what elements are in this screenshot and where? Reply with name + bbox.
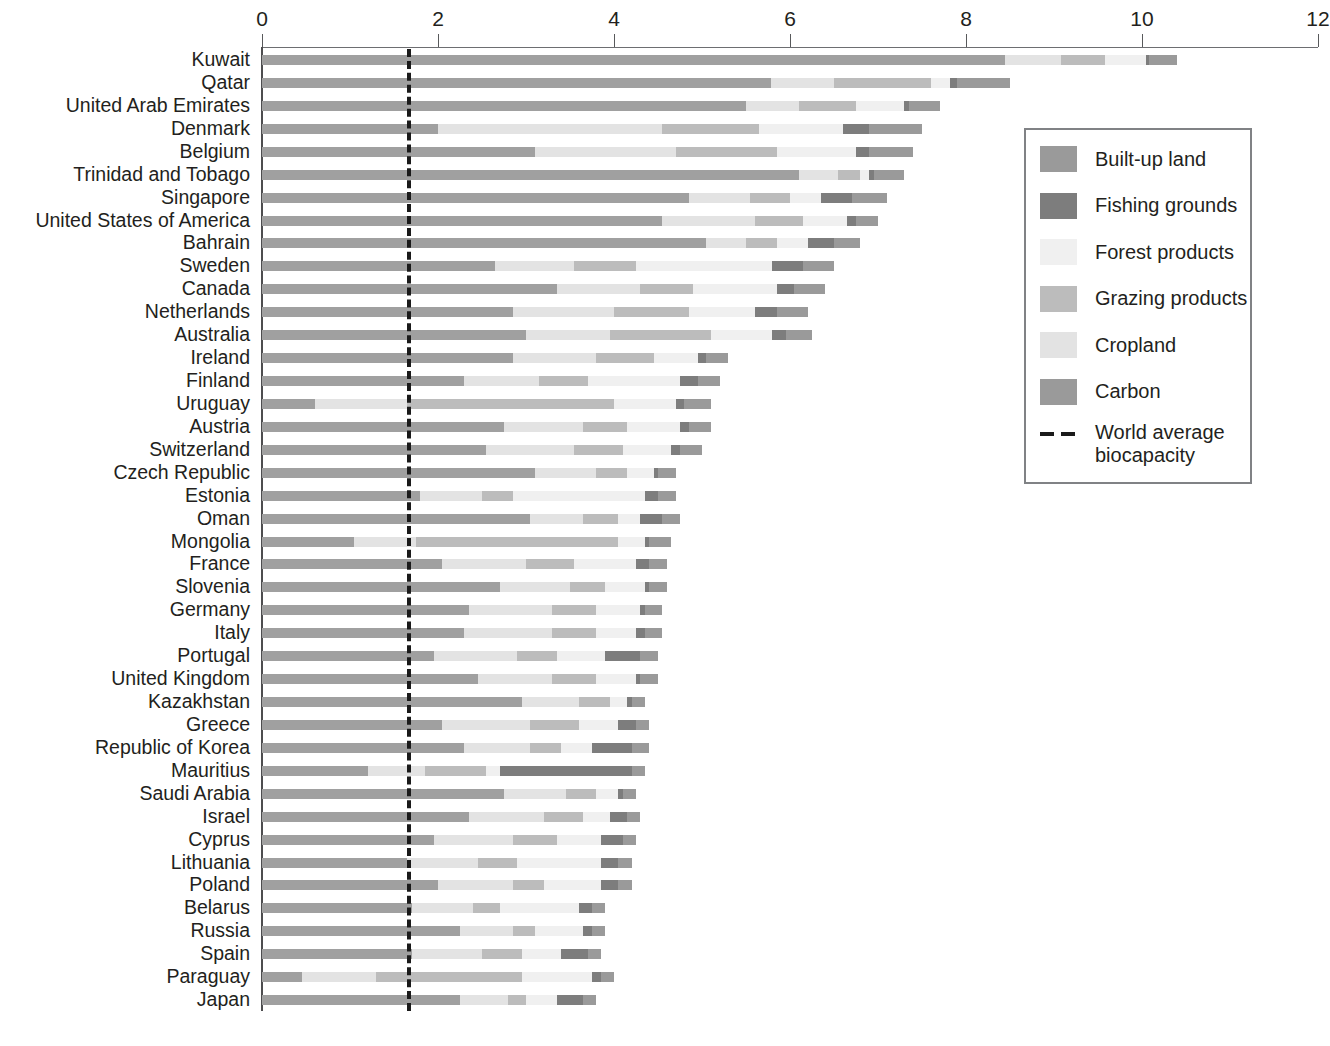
stacked-bar bbox=[262, 835, 636, 845]
bar-segment bbox=[1061, 55, 1105, 65]
stacked-bar bbox=[262, 537, 671, 547]
x-axis-tick-mark bbox=[790, 34, 791, 47]
country-label: Singapore bbox=[161, 188, 250, 208]
dashed-line-icon bbox=[1040, 421, 1077, 447]
bar-segment bbox=[614, 307, 689, 317]
bar-segment bbox=[513, 353, 597, 363]
bar-segment bbox=[460, 926, 513, 936]
bar-segment bbox=[513, 307, 614, 317]
bar-segment bbox=[614, 399, 676, 409]
x-axis-tick-mark bbox=[438, 34, 439, 47]
country-label: Italy bbox=[214, 623, 250, 643]
x-axis-tick-mark bbox=[262, 34, 263, 47]
legend-item[interactable]: Fishing grounds bbox=[1040, 193, 1237, 219]
bar-segment bbox=[482, 491, 513, 501]
bar-segment bbox=[583, 812, 609, 822]
bar-segment bbox=[574, 559, 636, 569]
legend-label: Built-up land bbox=[1095, 148, 1206, 171]
chart-row: Israel bbox=[0, 812, 1326, 822]
legend-item[interactable]: Built-up land bbox=[1040, 146, 1206, 172]
stacked-bar bbox=[262, 514, 680, 524]
country-label: Spain bbox=[200, 944, 250, 964]
legend-swatch-icon bbox=[1040, 239, 1077, 265]
bar-segment bbox=[676, 147, 777, 157]
country-label: Russia bbox=[190, 921, 250, 941]
chart-row: Oman bbox=[0, 514, 1326, 524]
stacked-bar bbox=[262, 353, 728, 363]
bar-segment bbox=[592, 972, 601, 982]
bar-segment bbox=[623, 445, 671, 455]
stacked-bar bbox=[262, 422, 711, 432]
bar-segment bbox=[636, 261, 772, 271]
bar-segment bbox=[262, 399, 315, 409]
bar-segment bbox=[526, 330, 610, 340]
bar-segment bbox=[596, 353, 653, 363]
country-label: Switzerland bbox=[149, 440, 250, 460]
bar-segment bbox=[574, 445, 622, 455]
x-axis-tick-mark bbox=[966, 34, 967, 47]
x-axis-tick-label: 2 bbox=[432, 8, 444, 29]
bar-segment bbox=[1149, 55, 1177, 65]
stacked-bar bbox=[262, 789, 636, 799]
country-label: Slovenia bbox=[175, 577, 250, 597]
bar-segment bbox=[434, 651, 518, 661]
bar-segment bbox=[315, 399, 407, 409]
bar-segment bbox=[636, 720, 649, 730]
bar-segment bbox=[847, 216, 856, 226]
bar-segment bbox=[500, 766, 632, 776]
bar-segment bbox=[869, 147, 913, 157]
legend-item[interactable]: Cropland bbox=[1040, 332, 1176, 358]
bar-segment bbox=[508, 995, 526, 1005]
stacked-bar bbox=[262, 949, 601, 959]
bar-segment bbox=[680, 422, 689, 432]
bar-segment bbox=[662, 124, 759, 134]
bar-segment bbox=[627, 468, 653, 478]
bar-segment bbox=[262, 101, 746, 111]
stacked-bar bbox=[262, 491, 676, 501]
legend-item[interactable]: Forest products bbox=[1040, 239, 1234, 265]
bar-segment bbox=[262, 261, 495, 271]
chart-row: Cyprus bbox=[0, 835, 1326, 845]
stacked-bar bbox=[262, 605, 662, 615]
legend-item[interactable]: Carbon bbox=[1040, 379, 1161, 405]
country-label: Oman bbox=[197, 509, 250, 529]
country-label: Lithuania bbox=[171, 853, 250, 873]
country-label: Finland bbox=[186, 371, 250, 391]
bar-segment bbox=[658, 468, 676, 478]
bar-segment bbox=[262, 124, 438, 134]
chart-row: Germany bbox=[0, 605, 1326, 615]
bar-segment bbox=[579, 903, 592, 913]
stacked-bar bbox=[262, 766, 645, 776]
bar-segment bbox=[438, 124, 662, 134]
bar-segment bbox=[706, 353, 728, 363]
chart-row: Kuwait bbox=[0, 55, 1326, 65]
bar-segment bbox=[579, 697, 610, 707]
bar-segment bbox=[777, 238, 808, 248]
bar-segment bbox=[262, 468, 535, 478]
bar-segment bbox=[262, 972, 302, 982]
bar-segment bbox=[874, 170, 905, 180]
country-label: Ireland bbox=[190, 348, 250, 368]
stacked-bar bbox=[262, 628, 662, 638]
bar-segment bbox=[412, 949, 482, 959]
bar-segment bbox=[803, 216, 847, 226]
bar-segment bbox=[684, 399, 710, 409]
bar-segment bbox=[495, 261, 574, 271]
legend-label: Carbon bbox=[1095, 380, 1161, 403]
legend-item-biocapacity[interactable]: World average biocapacity bbox=[1040, 421, 1225, 467]
stacked-bar bbox=[262, 399, 711, 409]
chart-row: Poland bbox=[0, 880, 1326, 890]
bar-segment bbox=[856, 101, 904, 111]
chart-row: Mauritius bbox=[0, 766, 1326, 776]
stacked-bar bbox=[262, 697, 645, 707]
bar-segment bbox=[610, 697, 628, 707]
bar-segment bbox=[583, 514, 618, 524]
x-axis-tick-label: 4 bbox=[608, 8, 620, 29]
stacked-bar bbox=[262, 858, 632, 868]
legend-item[interactable]: Grazing products bbox=[1040, 286, 1247, 312]
stacked-bar bbox=[262, 147, 913, 157]
country-label: France bbox=[189, 554, 250, 574]
stacked-bar bbox=[262, 307, 808, 317]
bar-segment bbox=[632, 743, 650, 753]
